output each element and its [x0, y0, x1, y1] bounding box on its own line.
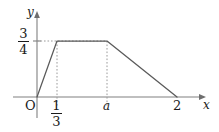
- y-axis-arrow: [34, 11, 40, 18]
- fraction-numerator: 1: [51, 99, 61, 112]
- origin-label: O: [25, 99, 36, 112]
- x-axis-label: x: [203, 99, 210, 111]
- x-tick-label-two: 2: [173, 99, 181, 112]
- fraction-denominator: 4: [18, 43, 28, 56]
- fraction-numerator: 3: [18, 27, 28, 40]
- figure-canvas: y x O 3 4 1 3 a 2: [0, 0, 219, 132]
- x-tick-label-a: a: [103, 100, 110, 112]
- x-tick-label-one-third: 1 3: [51, 99, 62, 128]
- fraction-denominator: 3: [51, 115, 61, 128]
- y-tick-label-three-quarters: 3 4: [18, 27, 29, 56]
- y-axis-label: y: [27, 6, 34, 18]
